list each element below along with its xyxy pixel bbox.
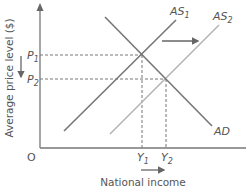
x-axis-label: National income: [100, 176, 186, 188]
y-axis-arrowhead: [37, 3, 44, 11]
origin-label: O: [27, 151, 36, 164]
p1-label: P1: [27, 49, 39, 64]
y-axis-label: Average price level ($): [3, 18, 15, 137]
as1-curve: [64, 20, 176, 131]
y2-label: Y2: [161, 151, 173, 166]
as2-label: AS2: [212, 10, 233, 25]
y1-label: Y1: [137, 151, 149, 166]
ad-curve: [105, 17, 212, 126]
p2-label: P2: [27, 73, 39, 88]
as-ad-diagram: AS1 AS2 AD P1 P2 Y1 Y2 O National income…: [0, 0, 246, 191]
as1-label: AS1: [169, 5, 190, 20]
ad-label: AD: [213, 125, 230, 138]
